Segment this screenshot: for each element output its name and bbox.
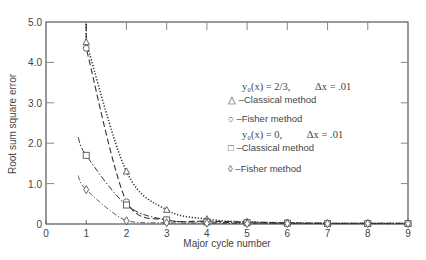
circle-icon: ○	[228, 113, 234, 124]
triangle-icon: △	[228, 94, 236, 105]
x-tick-label: 3	[164, 228, 170, 239]
y-tick-label: 0	[36, 219, 42, 230]
legend-group-2-dx: Δx = .01	[307, 129, 343, 140]
plot-frame	[46, 22, 408, 224]
x-tick-label: 9	[405, 228, 411, 239]
y-tick-label: 2.0	[28, 138, 42, 149]
diamond-marker-icon	[84, 186, 89, 194]
chart-canvas: 012345678901.02.03.04.05.0 Major cycle n…	[0, 0, 426, 260]
legend-group-2-header: y₀(x) = 0, Δx = .01	[228, 130, 343, 141]
legend-group-1-dx: Δx = .01	[315, 81, 351, 92]
square-marker-icon	[83, 152, 89, 158]
x-tick-label: 0	[43, 228, 49, 239]
x-tick-label: 2	[124, 228, 130, 239]
x-axis-label: Major cycle number	[183, 238, 271, 249]
x-tick-label: 6	[285, 228, 291, 239]
circle-marker-icon	[83, 45, 89, 51]
legend-group-1-condition: y₀(x) = 2/3,	[242, 81, 290, 92]
legend-group-2-condition: y₀(x) = 0,	[242, 129, 282, 140]
square-marker-icon	[123, 202, 129, 208]
x-tick-label: 8	[365, 228, 371, 239]
legend-item-label: –Fisher method	[236, 113, 302, 124]
legend-group-1-header: y₀(x) = 2/3, Δx = .01	[228, 82, 351, 93]
legend-item-classical-0: □ –Classical method	[228, 143, 314, 153]
y-tick-label: 5.0	[28, 17, 42, 28]
y-tick-label: 4.0	[28, 57, 42, 68]
y-axis-label: Root sum square error	[7, 73, 18, 174]
triangle-marker-icon	[83, 39, 89, 45]
y-tick-label: 1.0	[28, 179, 42, 190]
legend-item-label: –Fisher method	[235, 163, 301, 174]
legend-item-fisher-0: ◊ –Fisher method	[228, 164, 301, 174]
triangle-marker-icon	[123, 168, 129, 174]
x-tick-label: 7	[325, 228, 331, 239]
legend-item-label: –Classical method	[239, 94, 317, 105]
square-icon: □	[228, 142, 234, 153]
legend-item-label: –Classical method	[236, 142, 314, 153]
legend-item-fisher-2-3: ○ –Fisher method	[228, 114, 302, 124]
diamond-icon: ◊	[228, 163, 233, 174]
legend-item-classical-2-3: △ –Classical method	[228, 95, 316, 105]
x-tick-label: 1	[83, 228, 89, 239]
triangle-marker-icon	[163, 206, 169, 212]
y-tick-label: 3.0	[28, 98, 42, 109]
